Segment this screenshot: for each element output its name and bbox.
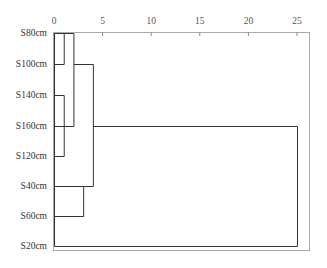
leaf-label: S120cm (16, 151, 48, 161)
leaf-label: S160cm (16, 121, 48, 131)
x-tick-label: 15 (195, 16, 205, 26)
leaf-label: S60cm (21, 211, 48, 221)
leaf-label: S40cm (21, 181, 48, 191)
x-tick-label: 20 (244, 16, 254, 26)
leaf-labels: S80cmS100cmS140cmS160cmS120cmS40cmS60cmS… (16, 28, 48, 251)
leaf-label: S140cm (16, 90, 48, 100)
leaf-label: S100cm (16, 59, 48, 69)
x-tick-label: 0 (52, 16, 57, 26)
dendrogram-chart: 0510152025 S80cmS100cmS140cmS160cmS120cm… (0, 0, 327, 268)
x-tick-label: 5 (100, 16, 105, 26)
x-tick-label: 25 (292, 16, 302, 26)
plot-frame (54, 33, 310, 251)
x-tick-label: 10 (146, 16, 156, 26)
leaf-label: S20cm (21, 241, 48, 251)
dendrogram-links (55, 34, 298, 247)
leaf-label: S80cm (21, 28, 48, 38)
